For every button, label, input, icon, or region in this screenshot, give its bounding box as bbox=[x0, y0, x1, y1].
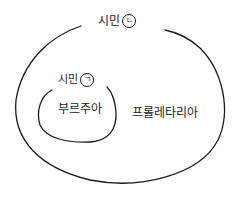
diagram-canvas bbox=[0, 0, 235, 199]
outer-set-boundary bbox=[16, 26, 225, 183]
proletariat-label: 프롤레타리아 bbox=[132, 107, 198, 119]
outer-set-label-text: 시민 bbox=[98, 14, 120, 28]
inner-set-label-text: 시민 bbox=[58, 73, 78, 86]
inner-set-label: 시민ㄱ bbox=[58, 73, 94, 87]
inner-set-marker: ㄱ bbox=[80, 73, 94, 87]
outer-set-marker: ㄴ bbox=[122, 14, 136, 28]
bourgeoisie-label: 부르주아 bbox=[58, 103, 102, 115]
outer-set-label: 시민ㄴ bbox=[98, 14, 136, 28]
